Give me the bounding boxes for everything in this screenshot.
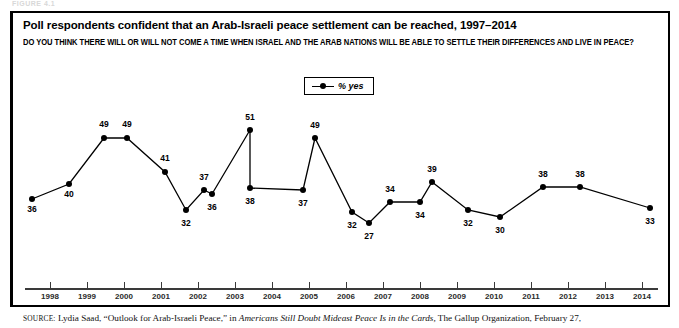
source-citation: SOURCE: Lydia Saad, “Outlook for Arab-Is…: [23, 313, 581, 323]
x-axis-tick: [198, 282, 199, 289]
x-axis-tick-label: 2006: [337, 292, 355, 301]
legend-line-dot-icon: [312, 82, 334, 91]
data-point-marker: [29, 196, 35, 202]
x-axis-tick-label: 2012: [559, 292, 577, 301]
data-point-marker: [162, 169, 168, 175]
data-point-marker: [366, 220, 372, 226]
data-point-value-label: 27: [364, 231, 373, 241]
chart-legend: % yes: [304, 77, 374, 95]
data-point-marker: [577, 184, 583, 190]
data-point-marker: [417, 199, 423, 205]
x-axis-tick: [50, 282, 51, 289]
x-axis-tick-label: 2004: [263, 292, 281, 301]
data-point-marker: [387, 199, 393, 205]
data-point-marker: [300, 187, 306, 193]
data-point-value-label: 49: [122, 119, 131, 129]
data-point-marker: [124, 135, 130, 141]
data-point-value-label: 32: [347, 220, 356, 230]
data-point-value-label: 41: [160, 153, 169, 163]
legend-item-label: % yes: [338, 81, 364, 91]
x-axis-tick: [605, 282, 606, 289]
x-axis-tick: [494, 282, 495, 289]
data-point-marker: [429, 179, 435, 185]
x-axis-tick: [531, 282, 532, 289]
x-axis-tick-label: 2007: [374, 292, 392, 301]
data-point-marker: [101, 135, 107, 141]
x-axis-tick-label: 2008: [411, 292, 429, 301]
x-axis-tick-label: 2001: [152, 292, 170, 301]
data-point-value-label: 51: [245, 112, 254, 122]
source-publication-title: Americans Still Doubt Mideast Peace Is i…: [239, 313, 436, 323]
figure-number-label: FIGURE 4.1: [12, 0, 55, 7]
x-axis-tick: [568, 282, 569, 289]
x-axis-tick-label: 2005: [300, 292, 318, 301]
data-point-value-label: 40: [64, 189, 73, 199]
x-axis-tick: [346, 282, 347, 289]
chart-title: Poll respondents confident that an Arab-…: [23, 19, 517, 31]
data-point-marker: [312, 135, 318, 141]
x-axis-tick-label: 2013: [596, 292, 614, 301]
data-point-marker: [66, 181, 72, 187]
x-axis-tick-label: 2014: [633, 292, 651, 301]
data-point-marker: [201, 187, 207, 193]
x-axis-tick-label: 2009: [448, 292, 466, 301]
data-point-value-label: 49: [310, 120, 319, 130]
data-point-value-label: 39: [427, 164, 436, 174]
data-point-value-label: 38: [245, 196, 254, 206]
data-point-value-label: 38: [575, 169, 584, 179]
x-axis-tick-label: 1998: [41, 292, 59, 301]
x-axis-tick: [235, 282, 236, 289]
data-point-marker: [209, 191, 215, 197]
x-axis-tick-label: 1999: [78, 292, 96, 301]
x-axis-tick-label: 2003: [226, 292, 244, 301]
data-point-value-label: 33: [645, 216, 654, 226]
data-point-value-label: 37: [199, 172, 208, 182]
x-axis-tick: [642, 282, 643, 289]
x-axis-tick-label: 2000: [115, 292, 133, 301]
chart-subtitle-question: DO YOU THINK THERE WILL OR WILL NOT COME…: [23, 37, 634, 48]
data-point-value-label: 30: [495, 225, 504, 235]
x-axis-tick: [383, 282, 384, 289]
data-point-value-label: 34: [415, 210, 424, 220]
data-point-marker: [497, 214, 503, 220]
x-axis-tick-label: 2011: [522, 292, 539, 301]
data-point-value-label: 36: [207, 202, 216, 212]
data-point-marker: [183, 207, 189, 213]
data-point-value-label: 37: [298, 198, 307, 208]
data-point-value-label: 34: [385, 184, 394, 194]
data-point-value-label: 32: [463, 218, 472, 228]
data-point-value-label: 38: [538, 169, 547, 179]
data-point-value-label: 49: [99, 119, 108, 129]
x-axis-tick: [124, 282, 125, 289]
data-point-marker: [247, 127, 253, 133]
data-point-marker: [540, 184, 546, 190]
x-axis-tick: [309, 282, 310, 289]
source-text-before: Lydia Saad, “Outlook for Arab-Israeli Pe…: [56, 313, 239, 323]
x-axis-line: [25, 288, 658, 290]
x-axis-tick: [420, 282, 421, 289]
data-point-marker: [465, 207, 471, 213]
source-text-after: The Gallup Organization, February 27,: [436, 313, 581, 323]
x-axis-tick: [272, 282, 273, 289]
x-axis-tick-label: 2002: [189, 292, 207, 301]
x-axis-tick: [87, 282, 88, 289]
source-prefix: SOURCE:: [23, 314, 56, 323]
data-point-value-label: 32: [181, 218, 190, 228]
data-point-value-label: 36: [27, 204, 36, 214]
data-point-marker: [247, 185, 253, 191]
figure-border-box: [10, 11, 670, 307]
x-axis-tick: [161, 282, 162, 289]
x-axis-tick-label: 2010: [485, 292, 503, 301]
x-axis-tick: [457, 282, 458, 289]
data-point-marker: [349, 209, 355, 215]
data-point-marker: [647, 205, 653, 211]
